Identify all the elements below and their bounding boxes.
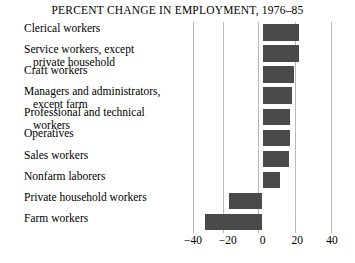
- bar-layer: [193, 149, 332, 170]
- bar-row: Private household workers: [0, 191, 355, 212]
- category-label: Craft workers: [24, 64, 189, 76]
- bar-layer: [193, 170, 332, 191]
- category-label-line1: Operatives: [24, 127, 74, 139]
- category-label: Nonfarm laborers: [24, 170, 189, 182]
- bar: [263, 172, 280, 188]
- bar-layer: [193, 212, 332, 233]
- category-label: Private household workers: [24, 191, 189, 203]
- category-label: Clerical workers: [24, 22, 189, 34]
- x-tick-label: 40: [315, 234, 349, 246]
- bar: [263, 87, 293, 103]
- category-label-line1: Professional and technical: [24, 106, 145, 118]
- bar-layer: [193, 85, 332, 106]
- bar-row: Farm workers: [0, 212, 355, 233]
- bar-layer: [193, 127, 332, 148]
- bar-row: Professional and technicalworkers: [0, 106, 355, 127]
- bar-layer: [193, 43, 332, 64]
- bar-layer: [193, 106, 332, 127]
- bar: [229, 193, 262, 209]
- bar: [263, 151, 289, 167]
- x-tick-label: 0: [246, 234, 280, 246]
- x-tick-label: −40: [176, 234, 210, 246]
- bar: [263, 45, 299, 61]
- x-tick-label: −20: [211, 234, 245, 246]
- bar-row: Clerical workers: [0, 22, 355, 43]
- category-label-line1: Nonfarm laborers: [24, 170, 105, 182]
- bar-row: Service workers, exceptprivate household: [0, 43, 355, 64]
- x-axis: −40−2002040: [0, 234, 355, 258]
- category-label: Sales workers: [24, 149, 189, 161]
- bar: [263, 66, 294, 82]
- bar-row: Managers and administrators,except farm: [0, 85, 355, 106]
- x-tick-label: 20: [280, 234, 314, 246]
- category-label: Farm workers: [24, 212, 189, 224]
- bar-layer: [193, 64, 332, 85]
- bar: [263, 24, 299, 40]
- bar-row: Sales workers: [0, 149, 355, 170]
- category-label-line1: Farm workers: [24, 212, 88, 224]
- category-label-line1: Private household workers: [24, 191, 147, 203]
- bar-rows: Clerical workersService workers, exceptp…: [0, 22, 355, 233]
- category-label-line1: Sales workers: [24, 149, 88, 161]
- category-label-line1: Service workers, except: [24, 43, 134, 55]
- bar-layer: [193, 191, 332, 212]
- bar-row: Nonfarm laborers: [0, 170, 355, 191]
- category-label: Operatives: [24, 127, 189, 139]
- chart-title: PERCENT CHANGE IN EMPLOYMENT, 1976–85: [0, 4, 355, 16]
- bar: [263, 130, 291, 146]
- bar: [263, 109, 291, 125]
- bar: [205, 214, 262, 230]
- category-label-line1: Managers and administrators,: [24, 85, 160, 97]
- category-label-line1: Craft workers: [24, 64, 88, 76]
- category-label-line1: Clerical workers: [24, 22, 100, 34]
- bar-chart-figure: PERCENT CHANGE IN EMPLOYMENT, 1976–85 Cl…: [0, 0, 355, 263]
- bar-layer: [193, 22, 332, 43]
- bar-row: Operatives: [0, 127, 355, 148]
- bar-row: Craft workers: [0, 64, 355, 85]
